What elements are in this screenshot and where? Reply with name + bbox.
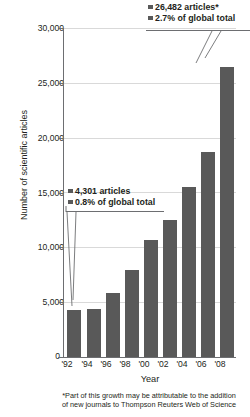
top-callout-leader-a [196,31,212,63]
annotation-2008-line1: 26,482 articles* [148,2,235,13]
bullet-square-icon [68,189,73,194]
chart-footnote-line2: of new journals to Thompson Reuters Web … [48,400,250,409]
annotation-1992-line2: 0.8% of global total [68,197,155,208]
bar-chart: Number of scientific articles 30,000 25,… [0,0,250,417]
annotation-1992-line1: 4,301 articles [68,186,155,197]
top-callout-leader-b [205,31,221,58]
low-callout-leader-b [73,212,76,300]
chart-footnote: *Part of this growth may be attributable… [48,391,250,410]
chart-footnote-line1: *Part of this growth may be attributable… [48,391,250,400]
bullet-square-icon [148,5,153,10]
annotation-2008-line2: 2.7% of global total [148,13,235,24]
low-callout-leader-a [67,212,72,306]
bullet-square-icon [148,16,153,21]
annotation-2008: 26,482 articles* 2.7% of global total [148,2,235,25]
bullet-square-icon [68,200,73,205]
annotation-1992: 4,301 articles 0.8% of global total [68,186,155,209]
